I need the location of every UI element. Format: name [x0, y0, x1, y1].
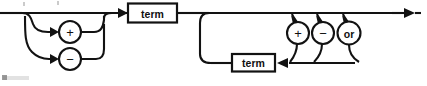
term-first-label: term: [141, 8, 164, 20]
scan-artifact-bottom-corner: [2, 75, 7, 80]
arrow-into-minus: [50, 54, 59, 64]
merge-from-plus: [81, 16, 104, 32]
scan-artifact-top-mid: [57, 1, 59, 5]
scan-artifact-top-left: [23, 2, 25, 6]
minus-label: −: [66, 52, 74, 67]
loop-return-left: [200, 13, 222, 63]
arrow-into-plus: [50, 27, 59, 37]
term-second-label: term: [242, 57, 265, 69]
exit-group: [392, 8, 421, 18]
op-minus-label: −: [319, 26, 327, 41]
sign-merge-riser: [104, 13, 112, 18]
op-or-label: or: [344, 28, 355, 40]
railroad-diagram: + − term term: [0, 0, 427, 86]
arrow-into-term-second: [277, 58, 288, 68]
op-plus-label: +: [294, 26, 302, 41]
rail-op-or-to-bottom: [349, 45, 359, 62]
rail-op-plus-to-bottom: [290, 44, 297, 62]
arrow-exit: [404, 8, 415, 18]
railroad-diagram-canvas: + − term term: [0, 0, 427, 86]
rail-op-minus-to-bottom: [314, 44, 322, 62]
operator-repeat-group: term + − or: [200, 13, 361, 72]
arrow-into-term-first: [118, 8, 128, 18]
optional-sign-group: + −: [22, 13, 112, 70]
branch-to-minus: [25, 16, 55, 59]
plus-label: +: [66, 25, 74, 40]
term-first-group: term: [118, 4, 177, 23]
